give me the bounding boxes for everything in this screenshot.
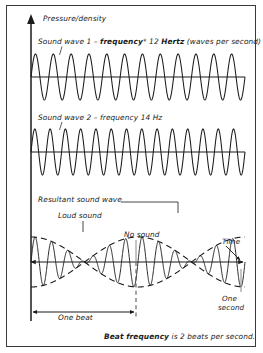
no-sound-label: No sound [124, 231, 160, 240]
wave-1-label-mid: 12 [147, 37, 162, 46]
caption-rest: is 2 beats per second. [169, 332, 255, 341]
one-beat-label: One beat [58, 314, 93, 323]
wave-1-plot [31, 47, 245, 101]
resultant-wave-plot [31, 237, 245, 287]
loud-sound-label: Loud sound [58, 212, 102, 221]
resultant-wave-label: Resultant sound wave [38, 196, 122, 205]
caption-bold: Beat frequency [104, 332, 169, 341]
y-axis-label: Pressure/density [43, 15, 106, 24]
wave-1-label-bold-hertz: Hertz [161, 37, 184, 46]
wave-2-plot [31, 122, 245, 175]
figure-canvas: Pressure/density Sound wave 1 – frequenc… [0, 0, 263, 353]
wave-1-label-bold-frequency: frequency [100, 37, 143, 46]
wave-1-label: Sound wave 1 – frequency* 12 Hertz (wave… [38, 38, 261, 47]
one-second-label-line2: second [218, 304, 244, 312]
time-label: Time [222, 238, 240, 246]
caption: Beat frequency is 2 beats per second. [104, 333, 255, 342]
wave-1-label-suffix: (waves per second) [184, 37, 261, 46]
time-axis-arrow [226, 246, 240, 260]
wave-1-label-prefix: Sound wave 1 – [38, 37, 100, 46]
resultant-leader-line [121, 202, 178, 213]
wave-2-label: Sound wave 2 – frequency 14 Hz [38, 114, 162, 123]
